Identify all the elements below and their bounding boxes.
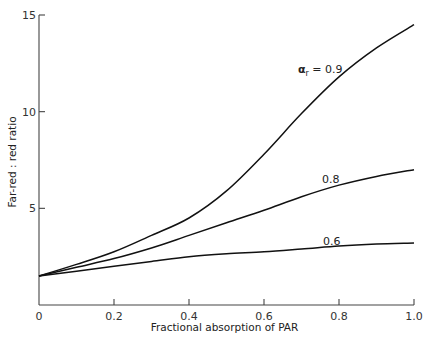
x-tick-label: 1.0: [405, 310, 423, 323]
x-tick-label: 0.8: [330, 310, 348, 323]
y-tick-label: 10: [22, 106, 36, 119]
curve-0-8: [39, 170, 414, 276]
y-axis-title: Far-red : red ratio: [6, 116, 18, 207]
x-tick-label: 0.2: [105, 310, 123, 323]
y-tick-label: 5: [29, 202, 36, 215]
curve-0-6: [39, 243, 414, 276]
curve-label-0-9: αr = 0.9: [298, 63, 343, 78]
curves: [39, 25, 414, 276]
curve-label-0-6: 0.6: [323, 235, 341, 248]
curve-label-0-8: 0.8: [322, 173, 340, 186]
axes: 00.20.40.60.81.051015Fractional absorpti…: [6, 9, 423, 333]
curve--r-0-9: [39, 25, 414, 276]
curve-labels: αr = 0.90.80.6: [298, 63, 343, 248]
x-axis-title: Fractional absorption of PAR: [151, 321, 299, 333]
y-tick-label: 15: [22, 9, 36, 22]
chart: 00.20.40.60.81.051015Fractional absorpti…: [0, 0, 429, 337]
x-tick-label: 0: [36, 310, 43, 323]
